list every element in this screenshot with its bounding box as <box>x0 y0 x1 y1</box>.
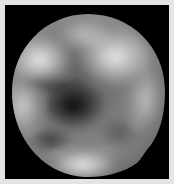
black-background <box>5 5 169 179</box>
image-frame <box>0 0 174 184</box>
planet-surface <box>5 5 169 179</box>
planet-sphere <box>5 5 169 179</box>
